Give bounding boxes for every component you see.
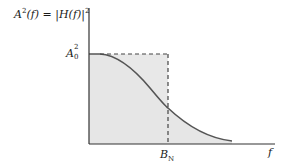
bandwidth-diagram: [0, 0, 291, 167]
x-axis-label: f: [268, 146, 272, 159]
y-axis-label: A2(f) = |H(f)|2: [14, 7, 89, 21]
a0-squared-label: A20: [66, 47, 80, 60]
bn-label: BN: [160, 148, 174, 163]
